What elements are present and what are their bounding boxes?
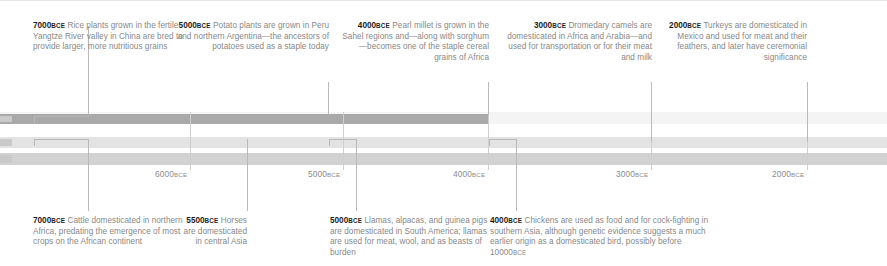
band-animals-stub bbox=[0, 155, 12, 163]
axis-label-year: 6000 bbox=[155, 169, 174, 179]
axis-label-year: 2000 bbox=[772, 169, 791, 179]
connector-bottom-3-stub bbox=[329, 139, 330, 146]
connector-bottom-2-vertical bbox=[247, 139, 248, 211]
connector-bottom-1-stub bbox=[34, 139, 35, 146]
connector-top-1-stub bbox=[34, 116, 35, 124]
band-crops-stub bbox=[0, 116, 12, 122]
callout-text: Dromedary camels are domesticated in Afr… bbox=[507, 21, 652, 62]
callout-top-5000bce: 5000BCE Potato plants are grown in Peru … bbox=[177, 21, 329, 53]
callout-top-4000bce: 4000BCE Pearl millet is grown in the Sah… bbox=[338, 21, 489, 63]
callout-bottom-7000bce: 7000BCE Cattle domesticated in northern … bbox=[33, 216, 193, 248]
connector-top-5-vertical bbox=[807, 82, 808, 142]
callout-top-2000bce: 2000BCE Turkeys are domesticated in Mexi… bbox=[657, 21, 807, 63]
callout-era: BCE bbox=[552, 22, 566, 29]
callout-era: BCE bbox=[51, 217, 65, 224]
callout-era: BCE bbox=[348, 217, 362, 224]
axis-label-era: BCE bbox=[635, 171, 648, 178]
band-middle-light bbox=[0, 137, 887, 148]
callout-year: 5500 bbox=[186, 216, 204, 225]
callout-top-3000bce: 3000BCE Dromedary camels are domesticate… bbox=[502, 21, 652, 63]
callout-text: Chickens are used as food and for cock-f… bbox=[490, 216, 708, 246]
timeline-figure: 6000BCE 5000BCE 4000BCE 3000BCE 2000BCE … bbox=[0, 0, 887, 266]
band-animals-mid bbox=[0, 153, 887, 165]
callout-bottom-5000bce: 5000BCE Llamas, alpacas, and guinea pigs… bbox=[330, 216, 496, 258]
axis-label-era: BCE bbox=[327, 171, 340, 178]
axis-label-6000bce: 6000BCE bbox=[155, 169, 187, 179]
callout-era: BCE bbox=[376, 22, 390, 29]
connector-bottom-4-vertical bbox=[516, 139, 517, 211]
axis-label-year: 3000 bbox=[616, 169, 635, 179]
axis-label-era: BCE bbox=[472, 171, 485, 178]
axis-label-era: BCE bbox=[791, 171, 804, 178]
connector-bottom-1-horizontal bbox=[34, 139, 89, 140]
connector-bottom-3-vertical bbox=[356, 139, 357, 211]
connector-bottom-1-vertical bbox=[88, 139, 89, 211]
connector-top-4-vertical bbox=[651, 82, 652, 142]
axis-label-era: BCE bbox=[174, 171, 187, 178]
callout-year: 5000 bbox=[179, 21, 197, 30]
callout-era: BCE bbox=[197, 22, 211, 29]
callout-year: 4000 bbox=[490, 216, 508, 225]
callout-era: BCE bbox=[51, 22, 65, 29]
axis-tick-5000bce bbox=[343, 112, 344, 170]
axis-label-year: 5000 bbox=[308, 169, 327, 179]
callout-year: 5000 bbox=[330, 216, 348, 225]
connector-bottom-4-horizontal bbox=[489, 139, 516, 140]
callout-year: 3000 bbox=[534, 21, 552, 30]
callout-bottom-5500bce: 5500BCE Horses are domesticated in centr… bbox=[175, 216, 247, 248]
callout-year: 7000 bbox=[33, 21, 51, 30]
connector-bottom-3-horizontal bbox=[329, 139, 356, 140]
top-rule bbox=[0, 0, 887, 1]
callout-year: 4000 bbox=[358, 21, 376, 30]
callout-year: 2000 bbox=[669, 21, 687, 30]
callout-era: BCE bbox=[205, 217, 219, 224]
axis-label-4000bce: 4000BCE bbox=[453, 169, 485, 179]
connector-bottom-4-stub bbox=[489, 139, 490, 146]
axis-label-2000bce: 2000BCE bbox=[772, 169, 804, 179]
axis-tick-6000bce bbox=[190, 112, 191, 170]
connector-top-2-vertical bbox=[328, 82, 329, 115]
connector-top-3-vertical bbox=[488, 82, 489, 115]
callout-year: 7000 bbox=[33, 216, 51, 225]
callout-era: BCE bbox=[508, 217, 522, 224]
band-middle-stub bbox=[0, 139, 12, 146]
callout-bottom-4000bce: 4000BCE Chickens are used as food and fo… bbox=[490, 216, 712, 258]
callout-era: BCE bbox=[687, 22, 701, 29]
axis-label-3000bce: 3000BCE bbox=[616, 169, 648, 179]
connector-top-1-horizontal bbox=[34, 116, 89, 117]
callout-text-tail-year: 10000 bbox=[490, 248, 513, 257]
axis-label-year: 4000 bbox=[453, 169, 472, 179]
callout-top-7000bce: 7000BCE Rice plants grown in the fertile… bbox=[33, 21, 201, 53]
callout-text-tail-era: BCE bbox=[513, 249, 527, 256]
axis-label-5000bce: 5000BCE bbox=[308, 169, 340, 179]
